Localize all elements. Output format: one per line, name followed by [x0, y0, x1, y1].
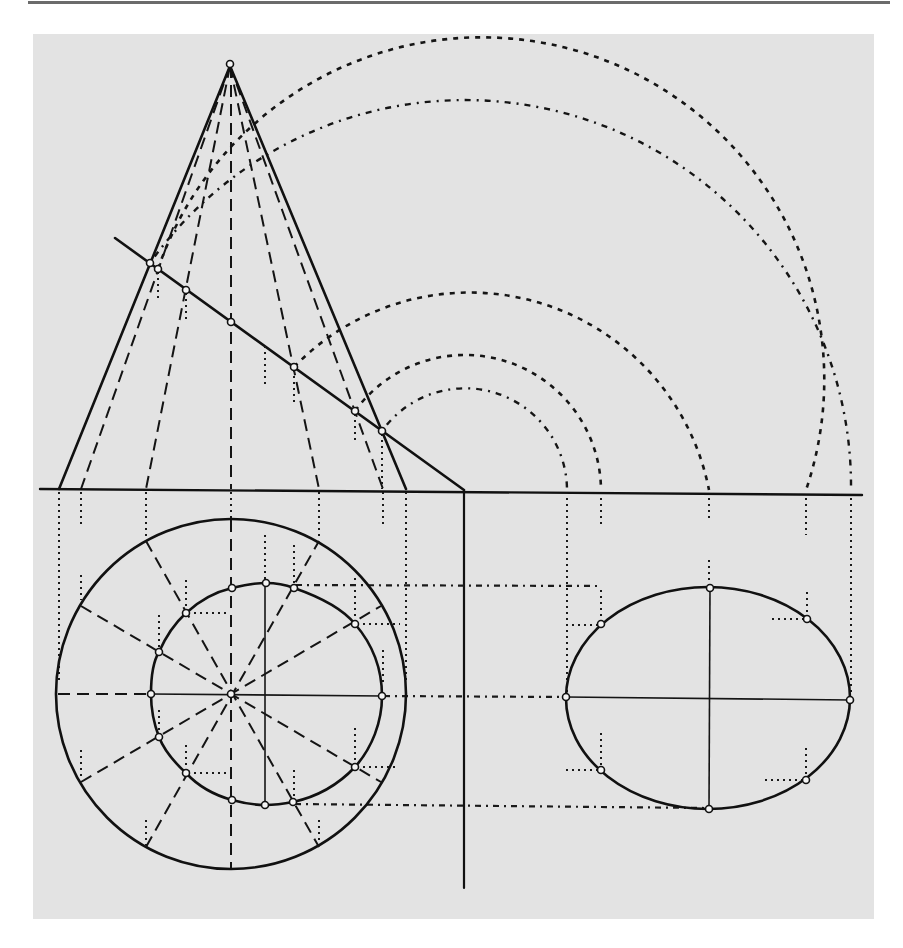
projection-lines-right — [566, 498, 851, 780]
center-point — [228, 691, 235, 698]
section-point — [379, 693, 386, 700]
arc-r386 — [150, 100, 851, 490]
ground-line — [40, 489, 862, 495]
ellipse-minor-axis — [709, 588, 710, 809]
cone-front-view — [59, 61, 464, 491]
generator-4 — [230, 66, 319, 489]
generator-1 — [81, 66, 230, 489]
cut-point — [379, 428, 386, 435]
cut-point — [228, 319, 235, 326]
arc-r102 — [382, 388, 567, 490]
section-point — [148, 691, 155, 698]
projection-lines-left — [59, 492, 406, 845]
section-point — [352, 621, 359, 628]
ellipse-point — [563, 694, 570, 701]
cut-point — [183, 287, 190, 294]
ellipse-point — [598, 767, 605, 774]
hproj-697 — [384, 696, 564, 697]
section-point — [156, 649, 163, 656]
cut-point — [155, 266, 162, 273]
section-point — [229, 585, 236, 592]
true-shape-view — [563, 585, 854, 813]
section-point — [156, 734, 163, 741]
ellipse-major-axis — [566, 697, 850, 700]
section-point — [183, 610, 190, 617]
cone-section-drawing — [0, 0, 903, 948]
arc-r244 — [294, 293, 709, 490]
rotation-arcs — [150, 37, 851, 490]
section-point — [262, 802, 269, 809]
ellipse-point — [803, 777, 810, 784]
arc-r136 — [355, 355, 601, 490]
section-point — [263, 580, 270, 587]
top-view — [56, 519, 406, 869]
section-point — [183, 770, 190, 777]
section-major-axis — [151, 694, 382, 696]
cut-point — [352, 408, 359, 415]
ellipse-point — [706, 806, 713, 813]
ellipse-point — [847, 697, 854, 704]
section-point — [229, 797, 236, 804]
cone-left-edge — [59, 66, 230, 489]
cone-right-edge — [230, 66, 406, 489]
hproj-586 — [296, 585, 600, 586]
apex-point — [227, 61, 234, 68]
section-point — [291, 585, 298, 592]
ellipse-point — [598, 621, 605, 628]
cut-point — [291, 364, 298, 371]
ellipse-point — [707, 585, 714, 592]
arc-r341 — [158, 37, 824, 490]
cut-point — [147, 260, 154, 267]
section-point — [352, 764, 359, 771]
section-point — [290, 799, 297, 806]
generator-2 — [146, 66, 230, 489]
ellipse-point — [804, 616, 811, 623]
cutting-plane — [115, 238, 464, 490]
hproj-808 — [295, 804, 705, 808]
